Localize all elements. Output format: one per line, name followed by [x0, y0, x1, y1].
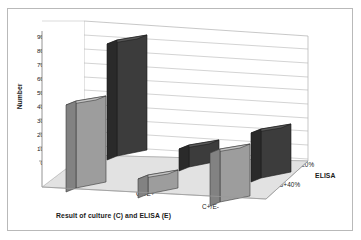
bar-front-c-plus-e-minus [210, 144, 250, 206]
bar-front-c-minus-e-plus [66, 96, 106, 192]
chart-frame: Number 90 80 70 60 50 40 30 20 10 0 C-/E… [7, 8, 353, 231]
y-axis-ticks [39, 36, 42, 161]
chart-plot-area [8, 9, 354, 232]
bar-back-c-minus-e-plus [107, 35, 147, 160]
bar-back-c-plus-e-minus [251, 124, 291, 182]
